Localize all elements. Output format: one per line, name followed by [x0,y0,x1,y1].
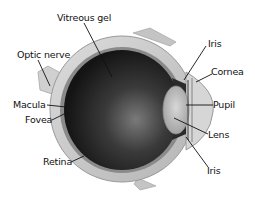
label-lens: Lens [208,129,229,140]
label-optic-nerve: Optic nerve [17,49,70,60]
label-iris-bottom: Iris [207,165,221,176]
leader-iris-top [184,46,206,80]
eye-diagram: Vitreous gel Optic nerve Macula Fovea Re… [0,0,255,200]
label-macula: Macula [13,99,46,110]
label-retina: Retina [43,156,72,167]
lens-shape [163,86,189,134]
label-pupil: Pupil [213,99,235,110]
label-vitreous-gel: Vitreous gel [57,12,111,23]
leader-cornea [196,74,212,82]
label-cornea: Cornea [211,66,244,77]
label-iris-top: Iris [208,38,222,49]
label-fovea: Fovea [25,114,52,125]
